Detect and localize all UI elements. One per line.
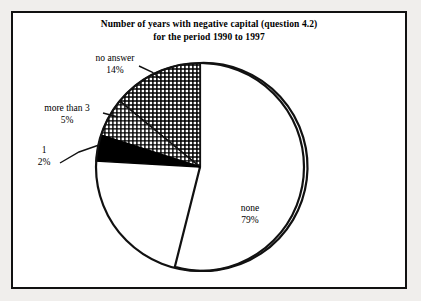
pie-label-no-answer-name: no answer [96, 53, 135, 63]
pie-label-none-percent: 79% [228, 215, 272, 227]
pie-label-no-answer-percent: 14% [86, 65, 144, 77]
pie-label-more-than-3-name: more than 3 [44, 103, 89, 113]
pie-label-more-than-3: more than 3 5% [31, 103, 103, 126]
pie-label-no-answer: no answer 14% [86, 53, 144, 76]
chart-figure: Number of years with negative capital (q… [0, 0, 421, 301]
pie-label-more-than-3-percent: 5% [31, 115, 103, 127]
figure-caption [14, 292, 414, 301]
leader-line-one [60, 145, 99, 163]
pie-label-none-name: none [241, 203, 259, 213]
pie-label-one-percent: 2% [26, 157, 62, 169]
pie-label-none: none 79% [228, 203, 272, 226]
pie-label-one: 1 2% [26, 145, 62, 168]
pie-label-one-name: 1 [42, 145, 47, 155]
pie-chart-graphic [0, 0, 421, 301]
